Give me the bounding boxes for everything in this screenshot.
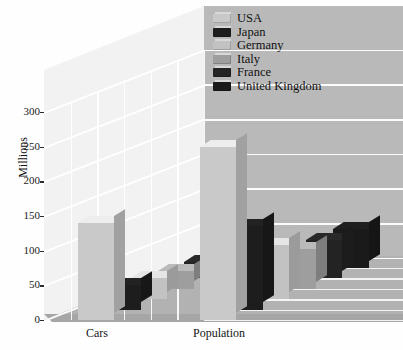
legend-label: Germany <box>237 39 284 53</box>
y-tick-label: 50 <box>6 279 40 290</box>
y-tick-mark <box>40 251 44 252</box>
bar-side <box>316 235 327 281</box>
y-tick-mark <box>40 181 44 182</box>
bar-usa-cars <box>78 223 114 320</box>
y-tick-label: 150 <box>6 210 40 221</box>
bar-face <box>78 223 114 320</box>
legend-item-france: France <box>213 66 321 80</box>
legend-item-italy: Italy <box>213 53 321 67</box>
legend-swatch <box>213 68 231 77</box>
bar-face <box>200 147 236 320</box>
legend-swatch <box>213 14 231 23</box>
y-tick-mark <box>40 285 44 286</box>
y-tick-label: 100 <box>6 245 40 256</box>
legend-swatch <box>213 41 231 50</box>
bar-side <box>114 209 125 313</box>
legend-label: USA <box>237 12 262 26</box>
legend-label: France <box>237 66 271 80</box>
legend-label: United Kingdom <box>237 80 321 94</box>
x-tick-label-cars: Cars <box>62 326 132 341</box>
bar-side <box>289 231 300 292</box>
legend-item-usa: USA <box>213 12 321 26</box>
bar-usa-population <box>200 147 236 320</box>
legend-label: Italy <box>237 53 260 67</box>
legend-item-germany: Germany <box>213 39 321 53</box>
bar-side <box>342 226 353 271</box>
bar-side <box>263 213 274 303</box>
chart-scene <box>0 0 403 350</box>
legend-item-united-kingdom: United Kingdom <box>213 80 321 94</box>
bar-side <box>236 133 247 313</box>
y-axis-title: Millions <box>16 113 31 203</box>
x-tick-label-population: Population <box>184 326 254 341</box>
bar-side <box>369 215 380 261</box>
legend-swatch <box>213 82 231 91</box>
legend-swatch <box>213 28 231 37</box>
y-tick-label: 0 <box>6 314 40 325</box>
y-tick-mark <box>40 216 44 217</box>
legend-label: Japan <box>237 26 265 40</box>
chart-legend: USAJapanGermanyItalyFranceUnited Kingdom <box>209 8 327 97</box>
y-tick-mark <box>40 147 44 148</box>
y-tick-mark <box>40 320 44 321</box>
bar-chart-3d: 050100150200250300 Millions CarsPopulati… <box>0 0 403 350</box>
y-tick-mark <box>40 112 44 113</box>
legend-swatch <box>213 55 231 64</box>
legend-item-japan: Japan <box>213 26 321 40</box>
